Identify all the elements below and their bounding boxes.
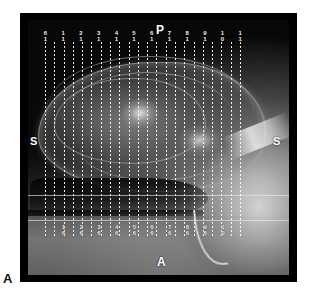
orientation-marker-superior-right: S — [273, 136, 280, 147]
slice-line[interactable] — [156, 42, 157, 238]
orientation-marker-superior-left: S — [30, 136, 37, 147]
slice-label-bottom: 16 — [59, 225, 68, 236]
slice-line[interactable] — [212, 42, 213, 238]
slice-label-top: 61 — [41, 31, 50, 42]
slice-line[interactable] — [129, 42, 130, 238]
slice-label-top: 21 — [76, 31, 85, 42]
slice-label-top: 10 — [218, 31, 227, 42]
slice-label-top: 71 — [165, 31, 174, 42]
slice-label-bottom: 26 — [77, 225, 86, 236]
slice-line[interactable] — [73, 42, 74, 238]
slice-label-bottom: 10 — [218, 225, 227, 236]
slice-line[interactable] — [221, 42, 222, 238]
slice-line[interactable] — [194, 42, 195, 238]
slice-line[interactable] — [231, 42, 232, 238]
slice-label-top: 11 — [59, 31, 68, 42]
slice-label-top: 81 — [183, 31, 192, 42]
mri-scan-canvas: P A S S 61112131415161718191101116263646… — [28, 20, 289, 275]
slice-label-bottom: 56 — [130, 225, 139, 236]
slice-label-top: 41 — [112, 31, 121, 42]
slice-line[interactable] — [101, 42, 102, 238]
slice-line[interactable] — [119, 42, 120, 238]
slice-line[interactable] — [184, 42, 185, 238]
slice-line[interactable] — [203, 42, 204, 238]
slice-label-top: 61 — [147, 31, 156, 42]
reference-line-superior — [28, 195, 289, 196]
figure-panel-label: A — [3, 272, 12, 285]
slice-line[interactable] — [54, 42, 55, 238]
slice-line[interactable] — [240, 42, 241, 238]
reference-line-inferior — [28, 220, 289, 221]
slice-line[interactable] — [166, 42, 167, 238]
slice-line[interactable] — [45, 42, 46, 238]
slice-planning-overlay[interactable] — [28, 20, 289, 275]
slice-label-top: 11 — [236, 31, 245, 42]
slice-line[interactable] — [91, 42, 92, 238]
slice-label-bottom: 66 — [148, 225, 157, 236]
mri-image-frame: P A S S 61112131415161718191101116263646… — [20, 13, 297, 282]
slice-label-top: 31 — [94, 31, 103, 42]
slice-label-top: 51 — [130, 31, 139, 42]
slice-label-bottom: 46 — [112, 225, 121, 236]
slice-line[interactable] — [175, 42, 176, 238]
orientation-marker-posterior: P — [156, 24, 164, 36]
slice-label-bottom: 76 — [165, 225, 174, 236]
slice-label-bottom: 36 — [94, 225, 103, 236]
slice-line[interactable] — [147, 42, 148, 238]
orientation-marker-anterior: A — [157, 256, 166, 268]
slice-label-bottom: 96 — [201, 225, 210, 236]
slice-line[interactable] — [110, 42, 111, 238]
slice-label-top: 91 — [200, 31, 209, 42]
slice-line[interactable] — [64, 42, 65, 238]
slice-line[interactable] — [138, 42, 139, 238]
slice-label-bottom: 86 — [183, 225, 192, 236]
slice-line[interactable] — [82, 42, 83, 238]
